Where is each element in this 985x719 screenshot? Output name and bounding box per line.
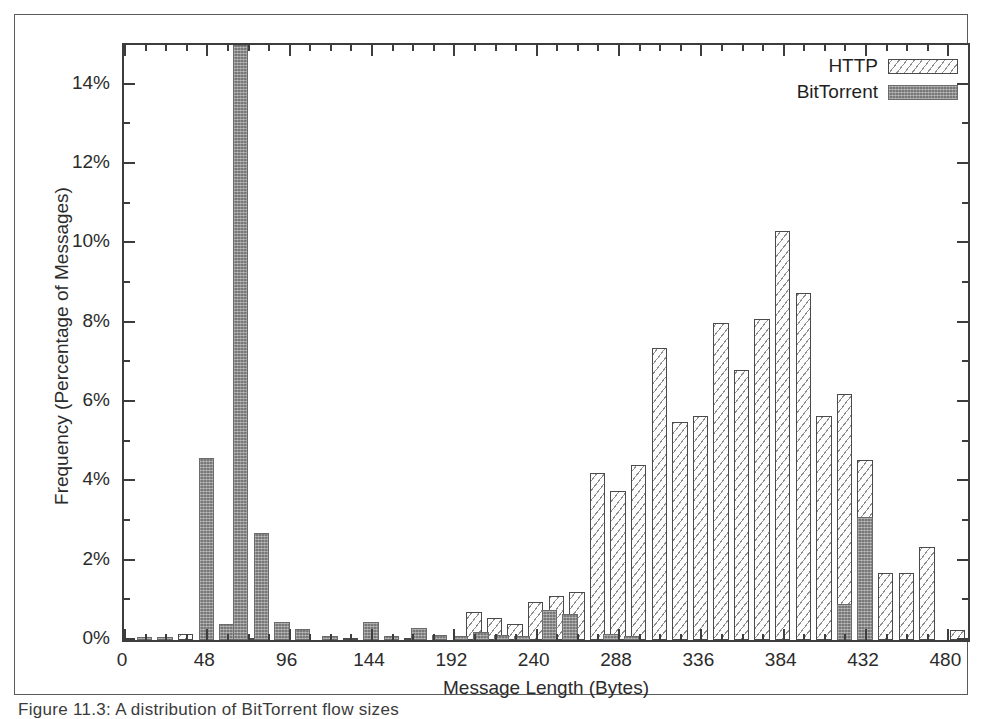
y-tick-label: 12% [72,151,110,173]
x-axis-tick-top [762,45,764,51]
x-axis-tick [453,629,455,640]
x-axis-tick [350,634,352,640]
bar-http [631,465,646,640]
figure-frame: 0%2%4%6%8%10%12%14% Frequency (Percentag… [14,14,968,695]
x-axis-tick-top [886,45,888,51]
bar-http [672,422,687,640]
x-axis-tick-top [927,45,929,51]
bar-http [652,348,667,640]
x-axis-tick-top [371,45,373,56]
x-axis-tick [227,634,229,640]
x-axis-tick [927,634,929,640]
y-axis-tick-right [957,162,968,164]
x-tick-label: 384 [765,649,797,671]
y-tick-label: 8% [83,310,110,332]
y-axis-tick-right [957,83,968,85]
x-axis-tick [700,629,702,640]
y-axis-tick-right [957,479,968,481]
bar-http [734,370,749,640]
x-tick-label: 288 [600,649,632,671]
y-tick-label: 14% [72,72,110,94]
y-axis-tick [124,122,130,124]
x-axis-tick-top [536,45,538,56]
x-tick-label: 192 [436,649,468,671]
x-axis-tick-top [248,45,250,51]
y-axis-tick [124,598,130,600]
y-axis-tick [124,440,130,442]
x-axis-tick-top [721,45,723,51]
y-axis-tick [124,43,130,45]
x-axis-tick-top [556,45,558,51]
x-axis-tick [762,634,764,640]
y-axis-tick-right [957,400,968,402]
figure-page: 0%2%4%6%8%10%12%14% Frequency (Percentag… [0,0,985,719]
x-axis-tick-top [309,45,311,51]
x-tick-label: 0 [117,649,128,671]
x-axis-tick [556,634,558,640]
x-axis-tick-top [906,45,908,51]
legend-label-http: HTTP [828,55,878,77]
x-axis-title: Message Length (Bytes) [122,677,970,699]
x-axis-tick [968,634,970,640]
x-axis-tick [844,634,846,640]
bar-http [754,319,769,640]
x-axis-tick-top [783,45,785,56]
x-axis-tick-top [474,45,476,51]
bar-http [713,323,728,640]
y-axis-tick-right [962,598,968,600]
x-axis-tick-top [165,45,167,51]
y-axis-tick-right [957,638,968,640]
y-axis-tick [124,321,135,323]
x-axis-tick [474,634,476,640]
y-axis-tick-right [957,241,968,243]
x-axis-tick [886,634,888,640]
bar-bt [233,45,248,640]
x-axis-tick-top [268,45,270,51]
y-axis-tick-right [962,281,968,283]
x-axis-tick-top [124,45,126,56]
x-tick-label: 48 [194,649,215,671]
x-axis-tick [206,629,208,640]
x-axis-tick [392,634,394,640]
y-axis-tick [124,83,135,85]
x-axis-tick [186,634,188,640]
x-axis-tick [268,634,270,640]
x-axis-tick-top [680,45,682,51]
x-axis-tick [412,634,414,640]
x-axis-tick [721,634,723,640]
x-axis-tick [165,634,167,640]
bar-bt [542,610,557,640]
figure-caption: Figure 11.3: A distribution of BitTorren… [18,700,958,719]
x-axis-tick-labels: 04896144192240288336384432480 [122,649,970,677]
x-axis-tick-top [824,45,826,51]
y-axis-tick [124,360,130,362]
bar-http [919,547,934,640]
x-axis-tick [783,629,785,640]
legend-label-bittorrent: BitTorrent [797,81,878,103]
x-axis-tick [433,634,435,640]
y-axis-tick-right [962,202,968,204]
bar-bt [295,629,310,640]
x-axis-tick [618,629,620,640]
y-axis-tick [124,519,130,521]
bar-bt [199,458,214,640]
legend-swatch-http-icon [888,59,958,74]
x-axis-tick [309,634,311,640]
x-axis-tick [289,629,291,640]
x-tick-label: 240 [518,649,550,671]
x-tick-label: 480 [930,649,962,671]
x-axis-tick [597,634,599,640]
bar-bt [274,622,289,640]
y-axis-tick-right [957,321,968,323]
y-axis-tick [124,281,130,283]
x-axis-tick-top [618,45,620,56]
y-axis-tick [124,241,135,243]
legend-entry-http: HTTP [797,53,958,79]
x-axis-tick-top [597,45,599,51]
x-axis-tick-top [515,45,517,51]
x-axis-tick-top [227,45,229,51]
y-axis-tick [124,400,135,402]
x-axis-tick [680,634,682,640]
bar-http [878,573,893,640]
x-axis-tick-top [700,45,702,56]
